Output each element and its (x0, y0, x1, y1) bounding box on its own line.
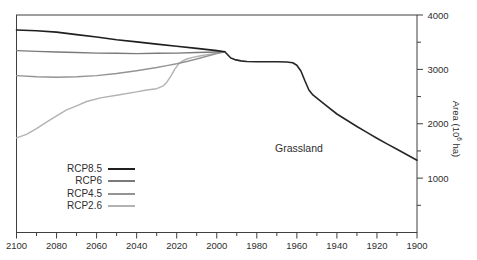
chart-canvas: 2100208020602040202020001980196019401920… (0, 0, 477, 260)
y-tick-label: 1000 (428, 173, 449, 184)
x-tick-label: 1980 (246, 240, 267, 251)
x-tick-label: 2100 (6, 240, 27, 251)
x-tick-label: 1960 (286, 240, 307, 251)
grassland-area-chart: 2100208020602040202020001980196019401920… (0, 0, 477, 260)
x-tick-label: 1940 (326, 240, 347, 251)
y-axis-title-prefix: Area (10 (451, 101, 462, 137)
y-axis-title: Area (106 ha) (451, 101, 463, 157)
legend-line-swatch (108, 180, 135, 182)
x-tick-label: 2040 (126, 240, 147, 251)
legend-label-rcp6: RCP6 (56, 175, 102, 187)
x-tick-label: 1900 (406, 240, 427, 251)
y-axis-title-suffix: ha) (451, 141, 462, 157)
series-line-rcp4.5 (17, 52, 225, 78)
x-tick-label: 2080 (46, 240, 67, 251)
y-tick-label: 2000 (428, 118, 449, 129)
series-line-rcp8.5 (17, 30, 225, 52)
legend-label-rcp8.5: RCP8.5 (56, 163, 102, 175)
plot-annotation-grassland: Grassland (275, 142, 323, 154)
x-tick-label: 2060 (86, 240, 107, 251)
x-tick-label: 2000 (206, 240, 227, 251)
legend-label-rcp2.6: RCP2.6 (56, 200, 102, 212)
y-tick-label: 3000 (428, 64, 449, 75)
y-tick-label: 4000 (428, 10, 449, 21)
x-tick-label: 1920 (366, 240, 387, 251)
legend: RCP8.5RCP6RCP4.5RCP2.6 (56, 163, 135, 212)
legend-line-swatch (108, 205, 135, 207)
x-tick-label: 2020 (166, 240, 187, 251)
legend-line-swatch (108, 193, 135, 195)
legend-line-swatch (108, 168, 135, 170)
series-line-rcp6 (17, 51, 225, 54)
series-line-rcp2.6 (17, 52, 225, 138)
legend-label-rcp4.5: RCP4.5 (56, 188, 102, 200)
